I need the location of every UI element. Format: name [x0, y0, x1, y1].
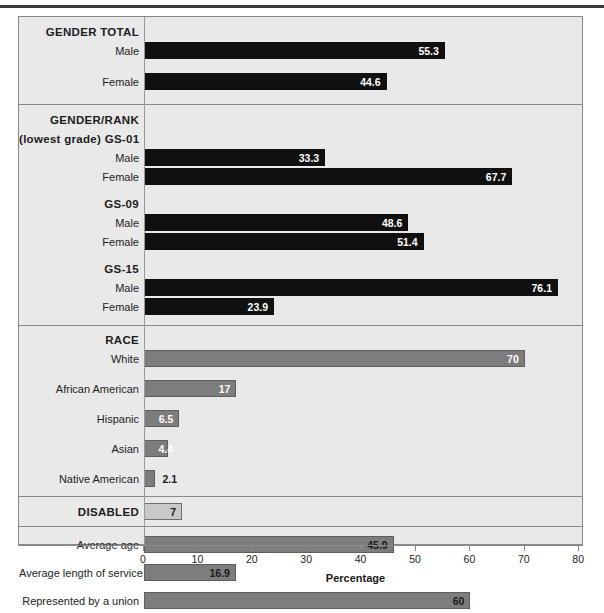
row-spacer — [19, 428, 582, 439]
x-axis-title: Percentage — [326, 572, 385, 584]
x-axis-tick-label: 20 — [246, 553, 258, 565]
x-axis-tick — [578, 545, 579, 551]
bar-row-label: Female — [19, 237, 139, 248]
chart-bar-row: Female23.9 — [19, 297, 582, 316]
section-heading-row: GENDER TOTAL — [19, 22, 582, 41]
chart-bar[interactable] — [144, 470, 155, 487]
x-axis-tick — [306, 545, 307, 551]
section-heading-label: (lowest grade) GS-01 — [19, 134, 139, 146]
row-spacer — [19, 186, 582, 194]
section-heading-row: GS-15 — [19, 259, 582, 278]
row-spacer — [19, 60, 582, 72]
bar-value-label: 60 — [440, 596, 464, 607]
bar-value-label: 76.1 — [526, 283, 552, 294]
chart-section-race: RACEWhite70African American17Hispanic6.5… — [19, 326, 582, 497]
x-axis-tick-label: 10 — [192, 553, 204, 565]
x-axis-tick — [524, 545, 525, 551]
bar-track: 33.3 — [144, 148, 582, 167]
section-heading-row: (lowest grade) GS-01 — [19, 129, 582, 148]
bar-row-label: Male — [19, 283, 139, 294]
row-spacer — [19, 458, 582, 469]
bar-track: 2.1 — [144, 469, 582, 488]
x-axis-baseline — [18, 545, 583, 546]
bar-row-label: Female — [19, 172, 139, 183]
section-heading-row: GENDER/RANK — [19, 110, 582, 129]
bar-value-label: 48.6 — [376, 218, 402, 229]
x-axis-tick-label: 80 — [572, 553, 584, 565]
chart-sections: GENDER TOTALMale55.3Female44.6GENDER/RAN… — [19, 17, 582, 613]
row-spacer — [19, 316, 582, 325]
chart-bar[interactable] — [144, 233, 424, 250]
chart-bar-row: Male33.3 — [19, 148, 582, 167]
bar-track: 44.6 — [144, 72, 582, 91]
chart-bar[interactable] — [144, 42, 445, 59]
bar-value-label: 55.3 — [413, 46, 439, 57]
row-spacer — [19, 368, 582, 379]
bar-row-label: Asian — [19, 444, 139, 455]
bar-value-label: 23.9 — [242, 302, 268, 313]
bar-value-label: 17 — [204, 384, 230, 395]
bar-track: 55.3 — [144, 41, 582, 60]
bar-row-label: Hispanic — [19, 414, 139, 425]
section-heading-label: GENDER/RANK — [19, 115, 139, 127]
value-axis-line — [144, 17, 145, 546]
bar-row-label: Male — [19, 153, 139, 164]
section-heading-row: GS-09 — [19, 194, 582, 213]
bar-track: 76.1 — [144, 278, 582, 297]
chart-bar[interactable] — [144, 73, 387, 90]
bar-row-label: Female — [19, 302, 139, 313]
bar-row-label: Male — [19, 46, 139, 57]
bar-track: 6.5 — [144, 409, 582, 428]
x-axis-tick-label: 70 — [518, 553, 530, 565]
row-spacer — [19, 398, 582, 409]
chart-frame: GENDER TOTALMale55.3Female44.6GENDER/RAN… — [18, 16, 583, 545]
x-axis-tick — [197, 545, 198, 551]
bar-value-label: 70 — [493, 354, 519, 365]
x-axis-tick — [415, 545, 416, 551]
chart-bar[interactable] — [144, 279, 558, 296]
x-axis-title-wrap: Percentage — [18, 572, 583, 584]
section-heading-label: DISABLED — [19, 507, 139, 519]
x-axis: 01020304050607080 Percentage — [18, 545, 583, 594]
chart-bar-row: Native American2.1 — [19, 469, 582, 488]
chart-bar-row: Male55.3 — [19, 41, 582, 60]
top-divider-rule — [0, 5, 604, 8]
chart-bar[interactable] — [144, 168, 512, 185]
row-spacer — [19, 521, 582, 526]
bar-track: 7 — [144, 502, 582, 521]
bar-row-label: Female — [19, 77, 139, 88]
chart-bar-row: White70 — [19, 349, 582, 368]
chart-bar[interactable] — [144, 214, 408, 231]
row-spacer — [19, 527, 582, 535]
bar-row-label: White — [19, 354, 139, 365]
chart-bar-row: Female44.6 — [19, 72, 582, 91]
bar-value-label: 67.7 — [480, 172, 506, 183]
row-spacer — [19, 91, 582, 104]
section-heading-label: GS-09 — [19, 199, 139, 211]
chart-bar[interactable] — [144, 592, 470, 609]
x-axis-tick — [469, 545, 470, 551]
chart-bar-row: Female67.7 — [19, 167, 582, 186]
bar-value-label: 4.4 — [147, 444, 173, 455]
bar-row-label: Represented by a union — [19, 596, 139, 607]
x-axis-tick-label: 60 — [464, 553, 476, 565]
chart-section-gender-rank: GENDER/RANK(lowest grade) GS-01Male33.3F… — [19, 105, 582, 326]
bar-value-label: 2.1 — [162, 474, 177, 485]
chart-bar[interactable] — [144, 350, 525, 367]
chart-bar-row: Female51.4 — [19, 232, 582, 251]
section-heading-label: GENDER TOTAL — [19, 27, 139, 39]
section-heading-label: RACE — [19, 335, 139, 347]
chart-bar-row: DISABLED7 — [19, 502, 582, 521]
x-axis-tick-label: 40 — [355, 553, 367, 565]
chart-bar-row: Male48.6 — [19, 213, 582, 232]
bar-track: 67.7 — [144, 167, 582, 186]
x-axis-tick — [252, 545, 253, 551]
x-axis-tick — [361, 545, 362, 551]
chart-section-gender-total: GENDER TOTALMale55.3Female44.6 — [19, 17, 582, 105]
chart-bar-row: African American17 — [19, 379, 582, 398]
x-axis-tick-label: 30 — [300, 553, 312, 565]
section-heading-row: RACE — [19, 330, 582, 349]
bar-track: 51.4 — [144, 232, 582, 251]
chart-bar-row: Hispanic6.5 — [19, 409, 582, 428]
row-spacer — [19, 488, 582, 496]
